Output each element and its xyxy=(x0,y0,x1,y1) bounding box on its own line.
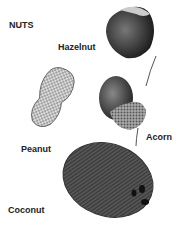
hazelnut-image xyxy=(106,7,154,58)
nuts-drawing xyxy=(0,0,184,225)
label-acorn: Acorn xyxy=(146,132,172,142)
label-hazelnut: Hazelnut xyxy=(58,42,96,52)
title: NUTS xyxy=(9,20,34,30)
coconut-image xyxy=(52,130,163,225)
label-coconut: Coconut xyxy=(8,205,45,215)
nuts-illustration: NUTS Hazelnut Peanut Acorn Coconut xyxy=(0,0,184,225)
peanut-image xyxy=(26,63,78,133)
label-peanut: Peanut xyxy=(21,144,51,154)
